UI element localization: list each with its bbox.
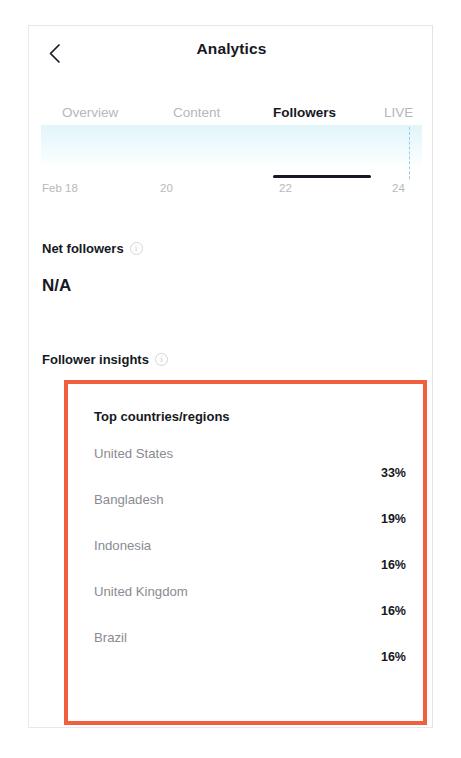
follower-insights-header: Follower insights i <box>42 352 168 367</box>
top-app-bar: Analytics <box>29 26 433 79</box>
tab-overview[interactable]: Overview <box>62 105 118 120</box>
info-icon[interactable]: i <box>130 242 143 255</box>
top-countries-list: United States 33% Bangladesh 19% Indones… <box>94 446 406 676</box>
country-bar-track <box>94 470 326 478</box>
analytics-tab-bar: Overview Content Followers LIVE <box>29 79 433 124</box>
followers-trend-chart: Feb 18 20 22 24 <box>29 125 433 227</box>
country-name: United States <box>94 446 173 461</box>
x-tick-1: 20 <box>160 182 173 194</box>
country-name: United Kingdom <box>94 584 188 599</box>
tab-followers[interactable]: Followers <box>273 105 336 120</box>
net-followers-value: N/A <box>42 276 342 296</box>
country-percent: 16% <box>381 650 406 664</box>
country-name: Indonesia <box>94 538 151 553</box>
x-tick-0: Feb 18 <box>42 182 78 194</box>
list-item[interactable]: Bangladesh 19% <box>94 492 406 538</box>
net-followers-header: Net followers i <box>42 241 342 256</box>
chart-x-axis: Feb 18 20 22 24 <box>29 182 433 204</box>
x-tick-3: 24 <box>392 182 405 194</box>
country-name: Brazil <box>94 630 127 645</box>
tab-live[interactable]: LIVE <box>384 105 413 120</box>
list-item[interactable]: United Kingdom 16% <box>94 584 406 630</box>
net-followers-section: Net followers i N/A <box>42 241 342 296</box>
country-percent: 19% <box>381 512 406 526</box>
country-bar-track <box>94 562 326 570</box>
country-percent: 16% <box>381 558 406 572</box>
country-bar-track <box>94 654 326 662</box>
follower-insights-label: Follower insights <box>42 352 149 367</box>
page-title: Analytics <box>29 40 433 58</box>
country-bar-track <box>94 608 326 616</box>
chart-dashed-marker <box>409 127 410 179</box>
top-countries-title: Top countries/regions <box>94 409 230 424</box>
x-tick-2: 22 <box>279 182 292 194</box>
list-item[interactable]: Brazil 16% <box>94 630 406 676</box>
country-percent: 33% <box>381 466 406 480</box>
list-item[interactable]: United States 33% <box>94 446 406 492</box>
tab-content[interactable]: Content <box>173 105 220 120</box>
net-followers-label: Net followers <box>42 241 124 256</box>
country-name: Bangladesh <box>94 492 164 507</box>
country-percent: 16% <box>381 604 406 618</box>
country-bar-track <box>94 516 326 524</box>
list-item[interactable]: Indonesia 16% <box>94 538 406 584</box>
top-countries-card: Top countries/regions United States 33% … <box>64 380 427 725</box>
chart-area-fill <box>41 125 422 165</box>
info-icon[interactable]: i <box>155 353 168 366</box>
phone-screen-card: Analytics Overview Content Followers LIV… <box>28 25 433 728</box>
